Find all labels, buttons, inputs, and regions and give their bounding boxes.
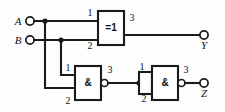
output-terminal-z[interactable]: [200, 79, 208, 87]
input-terminal-a[interactable]: [26, 17, 34, 25]
input-label-b: B: [15, 34, 22, 46]
circuit-canvas: A B =1 1 2 3 Y & 1 2 3: [0, 0, 225, 112]
output-label-z: Z: [201, 87, 208, 99]
input-tie-box-g3: [139, 72, 152, 94]
pin-label-g3-in1: 1: [140, 61, 145, 72]
junction-dot-a: [42, 18, 47, 23]
input-terminal-b[interactable]: [26, 36, 34, 44]
output-terminal-y[interactable]: [200, 31, 208, 39]
gate-symbol-nand-1: &: [84, 77, 91, 88]
pin-label-g2-in2: 2: [66, 95, 71, 106]
pin-label-g2-out: 3: [108, 64, 113, 75]
junction-dot-b: [58, 37, 63, 42]
pin-label-g2-in1: 1: [66, 62, 71, 73]
output-label-y: Y: [201, 39, 209, 51]
pin-label-g3-in2: 2: [142, 93, 147, 104]
pin-label-g1-in1: 1: [88, 7, 93, 18]
pin-label-g3-out: 3: [184, 64, 189, 75]
pin-label-g1-in2: 2: [88, 40, 93, 51]
pin-label-g1-out: 3: [130, 12, 135, 23]
input-label-a: A: [14, 15, 22, 27]
logic-circuit-diagram: A B =1 1 2 3 Y & 1 2 3: [0, 0, 225, 112]
gate-symbol-nand-2: &: [161, 77, 168, 88]
gate-symbol-xor: =1: [105, 22, 117, 33]
